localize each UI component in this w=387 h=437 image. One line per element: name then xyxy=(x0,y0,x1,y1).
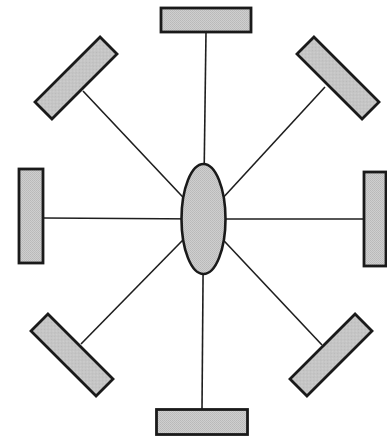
hub-spoke-diagram xyxy=(0,0,387,437)
block-top-right xyxy=(297,37,379,119)
block-right xyxy=(364,172,386,266)
block-left xyxy=(19,169,43,263)
spoke-left xyxy=(44,218,204,219)
central-hub-ellipse xyxy=(182,164,226,274)
block-bottom xyxy=(157,410,248,435)
block-bottom-right xyxy=(290,314,372,396)
block-top xyxy=(161,8,251,32)
block-bottom-left xyxy=(31,314,113,396)
block-top-left xyxy=(35,37,117,119)
